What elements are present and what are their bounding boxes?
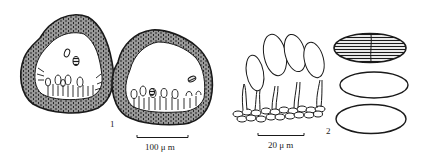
fruiting-body-left bbox=[21, 15, 114, 113]
scale-bar-label-20um: 20 μ m bbox=[268, 140, 293, 150]
conidium bbox=[300, 40, 327, 80]
conidium-plain bbox=[340, 72, 408, 98]
panel-label-1: 1 bbox=[110, 119, 115, 129]
conidiophore-cluster bbox=[233, 32, 328, 122]
conidium bbox=[149, 89, 154, 96]
fruiting-body-right bbox=[112, 30, 212, 125]
conidium bbox=[244, 54, 267, 92]
conidium-plain bbox=[336, 105, 406, 134]
figure-canvas: 1 100 μ m bbox=[0, 0, 424, 163]
scale-bar-20um bbox=[258, 133, 304, 136]
scale-bar-label-100um: 100 μ m bbox=[145, 142, 175, 152]
conidium-striated bbox=[334, 34, 406, 63]
panel-label-2: 2 bbox=[326, 126, 331, 136]
conidium bbox=[73, 57, 79, 66]
scale-bar-100um bbox=[137, 135, 188, 138]
